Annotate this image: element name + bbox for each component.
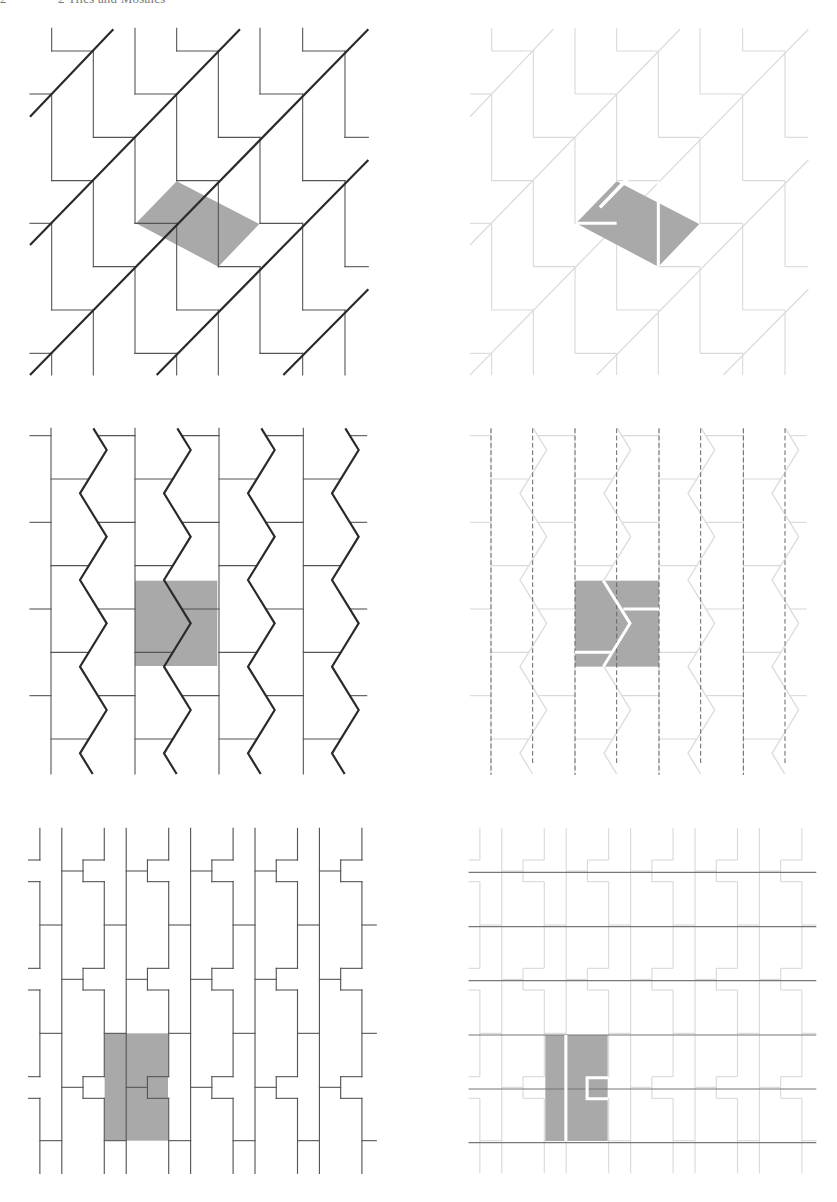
tiling-panel-staircase <box>20 20 390 390</box>
zigzag-tiling-diagram <box>20 420 390 790</box>
stepped-dissection-diagram <box>460 820 830 1200</box>
running-head: 2 2 Tiles and Mosaics <box>0 0 837 5</box>
staircase-tiling-diagram <box>20 20 390 390</box>
running-head-title: 2 Tiles and Mosaics <box>58 0 165 7</box>
tiling-panel-stepped-dissection <box>460 820 830 1200</box>
running-head-number: 2 <box>0 0 7 7</box>
tiling-panel-zigzag-dissection <box>460 420 830 790</box>
tiling-panel-zigzag <box>20 420 390 790</box>
stepped-tiling-diagram <box>20 820 390 1200</box>
staircase-dissection-diagram <box>460 20 830 390</box>
tiling-panel-stepped <box>20 820 390 1200</box>
tiling-panel-staircase-dissection <box>460 20 830 390</box>
zigzag-dissection-diagram <box>460 420 830 790</box>
